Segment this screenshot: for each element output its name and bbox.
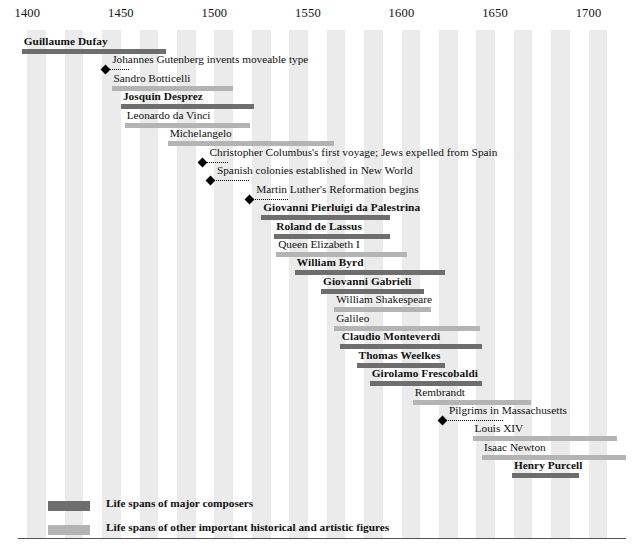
row-label: Queen Elizabeth I — [278, 238, 360, 250]
row-label: Guillaume Dufay — [24, 35, 108, 47]
row-label: Girolamo Frescobaldi — [372, 367, 478, 379]
row-label: Isaac Newton — [484, 441, 546, 453]
plot-area: Guillaume DufayJohannes Gutenberg invent… — [18, 30, 626, 538]
axis-tick-label: 1500 — [202, 6, 228, 21]
row-label: Spanish colonies established in New Worl… — [217, 164, 413, 176]
row-label: Thomas Weelkes — [359, 349, 441, 361]
legend-swatch-figure — [48, 525, 90, 535]
bottom-rule — [18, 538, 626, 539]
row-label: Giovanni Gabrieli — [323, 275, 411, 287]
timeline-chart: 1400145015001550160016501700 Guillaume D… — [0, 0, 643, 552]
row-label: William Shakespeare — [336, 293, 432, 305]
x-axis: 1400145015001550160016501700 — [0, 0, 643, 30]
row-label: Sandro Botticelli — [114, 72, 191, 84]
axis-tick-label: 1550 — [295, 6, 321, 21]
row-label: Claudio Monteverdi — [342, 330, 441, 342]
row-label: Giovanni Pierluigi da Palestrina — [263, 201, 420, 213]
legend-row: Life spans of major composers — [48, 496, 468, 520]
axis-tick-label: 1650 — [482, 6, 508, 21]
row-label: William Byrd — [297, 256, 364, 268]
event-dotted-line — [206, 162, 228, 163]
row-label: Christopher Columbus's first voyage; Jew… — [209, 146, 497, 158]
axis-tick-label: 1600 — [389, 6, 415, 21]
row-label: Rembrandt — [415, 386, 465, 398]
timeline-row: Henry Purcell — [18, 460, 626, 482]
event-dotted-line — [446, 420, 503, 421]
legend-label: Life spans of other important historical… — [106, 521, 389, 533]
legend-swatch-composer — [48, 501, 90, 511]
composer-lifespan-bar — [512, 473, 579, 478]
row-label: Josquin Desprez — [123, 90, 203, 102]
row-label: Pilgrims in Massachusetts — [449, 404, 567, 416]
row-label: Galileo — [336, 312, 369, 324]
axis-tick-label: 1400 — [14, 6, 40, 21]
axis-tick-label: 1700 — [576, 6, 602, 21]
row-label: Martin Luther's Reformation begins — [256, 183, 418, 195]
row-label: Roland de Lassus — [276, 220, 362, 232]
row-label: Henry Purcell — [514, 459, 583, 471]
row-label: Michelangelo — [170, 127, 232, 139]
row-label: Johannes Gutenberg invents moveable type — [112, 53, 308, 65]
row-label: Louis XIV — [475, 422, 524, 434]
legend: Life spans of major composersLife spans … — [48, 496, 468, 538]
row-label: Leonardo da Vinci — [127, 109, 211, 121]
legend-label: Life spans of major composers — [106, 497, 253, 509]
event-dotted-line — [214, 180, 249, 181]
legend-row: Life spans of other important historical… — [48, 520, 468, 538]
event-dotted-line — [253, 199, 288, 200]
event-dotted-line — [109, 69, 129, 70]
axis-tick-label: 1450 — [108, 6, 134, 21]
